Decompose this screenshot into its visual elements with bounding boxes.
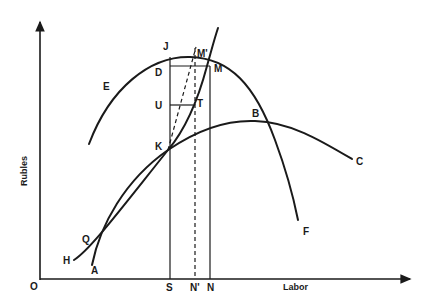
y-axis-label: Rubles — [19, 156, 29, 186]
label-d: D — [155, 67, 162, 78]
tick-n-prime: N' — [190, 282, 200, 293]
tick-n: N — [207, 282, 214, 293]
x-axis-label: Labor — [283, 282, 308, 292]
economics-diagram: J M' D M U T K B E C F Q H A O S N' N La… — [0, 0, 422, 307]
curve-e-f — [89, 57, 298, 220]
label-f: F — [303, 226, 309, 237]
label-origin: O — [30, 281, 38, 292]
label-k: K — [155, 141, 163, 152]
label-t: T — [197, 98, 203, 109]
label-c: C — [356, 156, 363, 167]
label-a: A — [91, 265, 98, 276]
label-m-prime: M' — [197, 48, 208, 59]
label-m: M — [214, 63, 222, 74]
label-j: J — [163, 41, 169, 52]
curve-h-c — [74, 121, 352, 260]
tick-s: S — [166, 282, 173, 293]
label-q: Q — [82, 234, 90, 245]
tangent-dashed-line — [168, 47, 196, 150]
label-b: B — [252, 108, 259, 119]
label-u: U — [155, 100, 162, 111]
label-h: H — [63, 255, 70, 266]
label-e: E — [103, 81, 110, 92]
